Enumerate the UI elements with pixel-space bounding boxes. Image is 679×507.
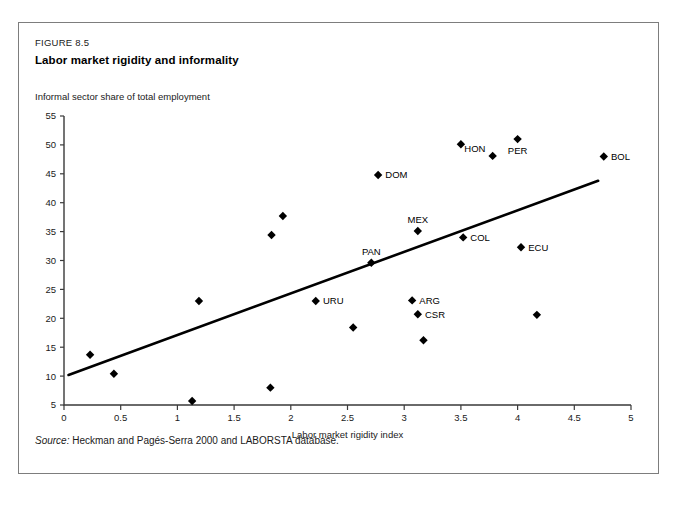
data-point-marker[interactable] xyxy=(267,231,275,239)
x-tick-label: 5 xyxy=(628,412,633,423)
x-tick-label: 1 xyxy=(175,412,180,423)
data-point-label: PER xyxy=(508,145,528,156)
data-point-label: ARG xyxy=(419,295,440,306)
data-point-marker[interactable] xyxy=(513,135,521,143)
data-point-label: PAN xyxy=(362,246,381,257)
data-point-marker[interactable] xyxy=(349,323,357,331)
data-point-marker[interactable] xyxy=(110,370,118,378)
plot-canvas: 51015202530354045505500.511.522.533.544.… xyxy=(19,23,660,475)
data-point-label: HON xyxy=(464,143,485,154)
x-tick-label: 2.5 xyxy=(341,412,354,423)
axis-lines xyxy=(64,116,631,405)
data-point-marker[interactable] xyxy=(266,383,274,391)
y-tick-label: 15 xyxy=(45,342,56,353)
data-point-marker[interactable] xyxy=(86,351,94,359)
y-tick-label: 30 xyxy=(45,255,56,266)
y-tick-label: 10 xyxy=(45,371,56,382)
y-tick-label: 35 xyxy=(45,226,56,237)
y-tick-label: 25 xyxy=(45,284,56,295)
data-point-label: CSR xyxy=(425,309,445,320)
data-point-marker[interactable] xyxy=(533,311,541,319)
data-point-label: URU xyxy=(323,295,344,306)
data-point-marker[interactable] xyxy=(374,171,382,179)
data-point-marker[interactable] xyxy=(414,310,422,318)
data-point-label: COL xyxy=(470,232,490,243)
source-label: Source: xyxy=(35,435,69,446)
data-point-marker[interactable] xyxy=(414,227,422,235)
x-tick-label: 3 xyxy=(402,412,407,423)
y-tick-label: 55 xyxy=(45,110,56,121)
data-point-marker[interactable] xyxy=(459,233,467,241)
data-point-marker[interactable] xyxy=(600,152,608,160)
data-point-label: DOM xyxy=(385,169,407,180)
x-tick-label: 4 xyxy=(515,412,520,423)
source-note: Source: Heckman and Pagés-Serra 2000 and… xyxy=(35,435,339,446)
source-text: Heckman and Pagés-Serra 2000 and LABORST… xyxy=(69,435,338,446)
x-tick-label: 1.5 xyxy=(227,412,240,423)
data-point-label: ECU xyxy=(528,242,548,253)
data-point-marker[interactable] xyxy=(188,397,196,405)
data-point-marker[interactable] xyxy=(419,336,427,344)
data-point-marker[interactable] xyxy=(279,212,287,220)
scatter-plot: 51015202530354045505500.511.522.533.544.… xyxy=(19,23,660,475)
data-point-label: MEX xyxy=(408,214,429,225)
trend-line xyxy=(69,181,599,375)
data-point-marker[interactable] xyxy=(408,296,416,304)
x-tick-label: 0 xyxy=(61,412,66,423)
y-tick-label: 45 xyxy=(45,168,56,179)
x-tick-label: 4.5 xyxy=(568,412,581,423)
y-tick-label: 5 xyxy=(51,399,56,410)
x-tick-label: 0.5 xyxy=(114,412,127,423)
data-point-marker[interactable] xyxy=(517,243,525,251)
y-tick-label: 40 xyxy=(45,197,56,208)
y-tick-label: 50 xyxy=(45,139,56,150)
data-point-label: BOL xyxy=(611,151,630,162)
y-tick-label: 20 xyxy=(45,313,56,324)
x-tick-label: 2 xyxy=(288,412,293,423)
figure-card: FIGURE 8.5 Labor market rigidity and inf… xyxy=(18,22,659,474)
data-point-marker[interactable] xyxy=(312,297,320,305)
data-point-marker[interactable] xyxy=(488,152,496,160)
x-tick-label: 3.5 xyxy=(454,412,467,423)
data-point-marker[interactable] xyxy=(195,297,203,305)
trend-line-group xyxy=(69,181,599,375)
